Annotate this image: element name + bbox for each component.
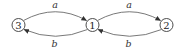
edge-label-1-2: a	[126, 0, 132, 10]
node-label-3: 3	[15, 20, 21, 31]
edge-3-to-1: a	[24, 0, 87, 21]
edge-1-to-3: b	[24, 30, 88, 50]
edge-1-to-2: a	[98, 0, 161, 21]
state-diagram: a b a b 3 1 2	[0, 0, 183, 53]
node-3: 3	[12, 19, 25, 32]
edge-path-1-2	[98, 12, 161, 21]
edge-label-2-1: b	[125, 38, 131, 49]
node-label-1: 1	[89, 20, 95, 31]
edge-path-3-1	[24, 12, 87, 21]
node-1: 1	[86, 19, 99, 32]
edge-path-2-1	[98, 30, 162, 37]
edge-label-1-3: b	[51, 38, 57, 49]
node-label-2: 2	[163, 20, 169, 31]
edge-2-to-1: b	[98, 30, 162, 50]
edge-label-3-1: a	[52, 0, 58, 10]
node-2: 2	[160, 19, 173, 32]
edge-path-1-3	[24, 30, 88, 37]
